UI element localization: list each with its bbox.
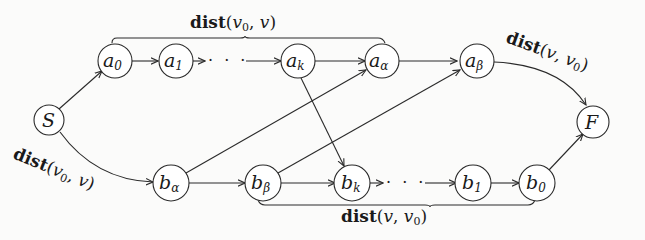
- svg-text:F: F: [584, 111, 599, 133]
- node-b-alpha: bα: [153, 165, 189, 201]
- label-top-brace: dist(v0, v): [190, 12, 276, 34]
- node-b-beta: bβ: [245, 165, 281, 201]
- node-a1: a1: [159, 44, 193, 78]
- label-s-to-balpha: dist(v0, v): [10, 143, 98, 196]
- top-brace: [112, 36, 385, 43]
- node-a0: a0: [98, 44, 132, 78]
- node-a-beta: aβ: [460, 44, 494, 78]
- node-b0: b0: [519, 165, 555, 201]
- edge-balpha-aalpha: [186, 70, 366, 173]
- edge-b0-f: [549, 134, 583, 170]
- edge-bbeta-abeta: [278, 70, 460, 173]
- ellipsis-top: · · ·: [208, 51, 248, 70]
- ellipsis-bottom: · · ·: [386, 173, 426, 192]
- edge-ak-bk: [301, 78, 344, 166]
- node-b1: b1: [455, 165, 491, 201]
- node-ak: ak: [281, 44, 315, 78]
- svg-text:S: S: [42, 109, 55, 131]
- node-f: F: [577, 106, 609, 138]
- label-abeta-to-f: dist(v, v0): [503, 27, 591, 77]
- node-s: S: [34, 105, 64, 135]
- edge-s-a0: [59, 71, 102, 109]
- node-a-alpha: aα: [365, 44, 399, 78]
- node-bk: bk: [334, 165, 370, 201]
- label-bottom-brace: dist(v, v0): [341, 206, 427, 228]
- edges: [59, 61, 586, 183]
- graph-diagram: · · · · · · S a0 a1 ak aα aβ bα bβ bk b1: [0, 0, 645, 240]
